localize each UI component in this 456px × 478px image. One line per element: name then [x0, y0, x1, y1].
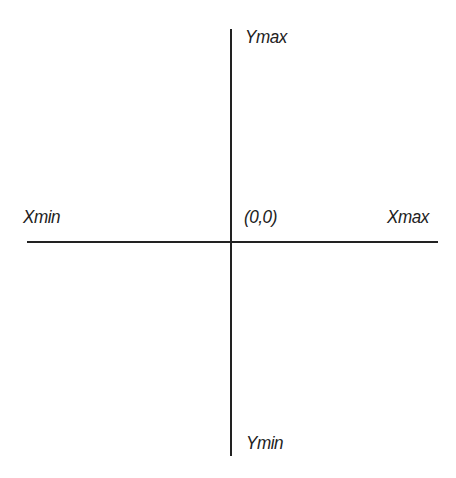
x-min-label: Xmin: [23, 206, 60, 228]
y-max-label: Ymax: [245, 26, 287, 48]
x-axis-line: [27, 241, 438, 243]
origin-label: (0,0): [244, 206, 277, 228]
y-min-label: Ymin: [246, 432, 283, 454]
x-max-label: Xmax: [387, 206, 429, 228]
